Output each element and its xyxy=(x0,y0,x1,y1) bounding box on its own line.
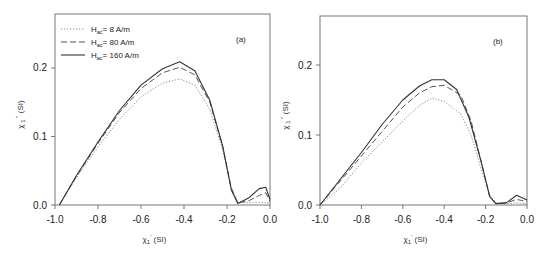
y-tick-label: 0.1 xyxy=(298,130,312,141)
y-tick-label: 0.2 xyxy=(33,62,47,73)
y-tick-label: 0.0 xyxy=(33,200,47,211)
x-tick-label: -0.4 xyxy=(436,214,454,225)
legend-label: Hac= 80 A/m xyxy=(91,38,135,48)
x-tick-label: -0.4 xyxy=(175,214,193,225)
x-axis-title: χ1' (SI) xyxy=(404,234,428,245)
x-tick-label: -1.0 xyxy=(311,214,329,225)
x-tick-label: -0.6 xyxy=(132,214,150,225)
x-tick-label: -0.2 xyxy=(218,214,236,225)
x-tick-label: -0.6 xyxy=(394,214,412,225)
panel-label: (b) xyxy=(493,37,503,46)
legend: Hac= 8 A/mHac= 80 A/mHac= 160 A/m xyxy=(61,25,139,61)
panel-label: (a) xyxy=(236,35,246,44)
series-line-dashed xyxy=(59,67,270,205)
legend-label: Hac= 160 A/m xyxy=(91,51,139,61)
x-tick-label: 0.0 xyxy=(520,214,534,225)
y-tick-label: 0.2 xyxy=(298,60,312,71)
panel-b: -1.0-0.8-0.6-0.4-0.20.00.00.10.2χ1' (SI)… xyxy=(280,16,534,245)
y-axis-title: χ 1 '' (SI) xyxy=(15,100,26,129)
figure: -1.0-0.8-0.6-0.4-0.20.00.00.10.2χ1' (SI)… xyxy=(0,0,551,256)
y-axis-title: χ 1 '' (SI) xyxy=(280,101,291,130)
series-line-dotted xyxy=(59,79,270,205)
x-tick-label: 0.0 xyxy=(263,214,277,225)
series-line-dotted xyxy=(320,98,527,205)
series-line-dashed xyxy=(320,85,527,205)
x-tick-label: -1.0 xyxy=(46,214,64,225)
series-line-solid xyxy=(59,62,270,205)
y-tick-label: 0.0 xyxy=(298,200,312,211)
legend-label: Hac= 8 A/m xyxy=(91,25,130,35)
x-axis-title: χ1' (SI) xyxy=(143,234,167,245)
x-tick-label: -0.2 xyxy=(477,214,495,225)
x-tick-label: -0.8 xyxy=(353,214,371,225)
panel-a: -1.0-0.8-0.6-0.4-0.20.00.00.10.2χ1' (SI)… xyxy=(15,14,277,245)
series-line-solid xyxy=(320,80,527,205)
x-tick-label: -0.8 xyxy=(89,214,107,225)
y-tick-label: 0.1 xyxy=(33,131,47,142)
